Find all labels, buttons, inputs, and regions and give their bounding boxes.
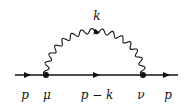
vertex-mu — [43, 72, 49, 78]
feynman-diagram: k p μ p − k ν p — [0, 0, 193, 108]
label-p-minus-k: p − k — [81, 88, 114, 102]
label-nu: ν — [137, 88, 144, 102]
arrow-mid-icon — [93, 72, 100, 78]
vertex-nu — [140, 72, 146, 78]
label-p-out: p — [164, 88, 172, 102]
label-mu: μ — [43, 88, 51, 102]
label-k: k — [93, 9, 100, 23]
arrow-out-icon — [163, 72, 170, 78]
label-p-in: p — [21, 88, 29, 102]
photon-propagator — [43, 28, 145, 75]
arrow-in-icon — [24, 72, 31, 78]
